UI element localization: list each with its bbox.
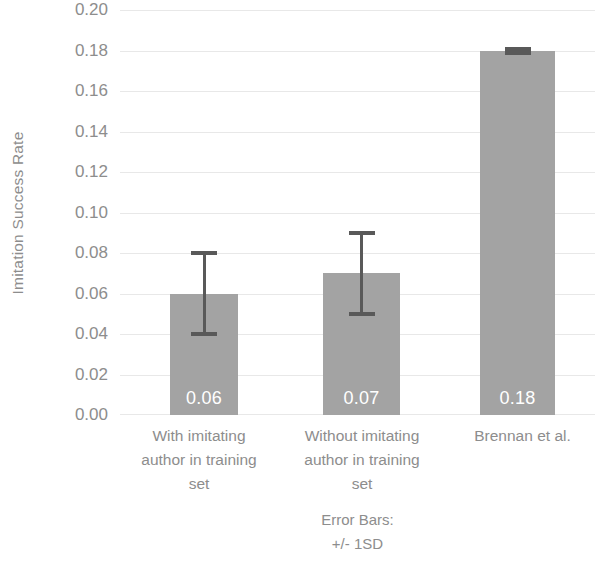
error-bar-line xyxy=(203,253,206,334)
plot-area: 0.06 0.07 0.18 xyxy=(120,10,595,415)
x-category-label-line: set xyxy=(120,472,278,496)
y-tick-label: 0.02 xyxy=(75,365,108,385)
y-tick-label: 0.12 xyxy=(75,162,108,182)
y-axis-title: Imitation Success Rate xyxy=(0,0,36,425)
error-bar-cap-bottom xyxy=(191,332,217,336)
x-category-label-line: With imitating xyxy=(120,424,278,448)
bar-group: 0.06 xyxy=(170,10,238,415)
x-category-label-line: author in training xyxy=(283,448,441,472)
bar-group: 0.07 xyxy=(323,10,400,415)
x-category-label-line: author in training xyxy=(120,448,278,472)
error-bar-cap-top xyxy=(349,231,375,235)
bar-chart: Imitation Success Rate 0.20 0.18 0.16 0.… xyxy=(0,0,602,567)
y-tick-label: 0.16 xyxy=(75,81,108,101)
caption-line-2: +/- 1SD xyxy=(120,532,595,556)
bar-group: 0.18 xyxy=(480,10,555,415)
caption-line-1: Error Bars: xyxy=(120,508,595,532)
y-tick-label: 0.14 xyxy=(75,122,108,142)
y-tick-label: 0.00 xyxy=(75,405,108,425)
x-axis-category-labels: With imitating author in training set Wi… xyxy=(120,424,595,504)
y-tick-label: 0.08 xyxy=(75,243,108,263)
bar-value-label: 0.07 xyxy=(323,388,400,409)
y-tick-label: 0.06 xyxy=(75,284,108,304)
y-tick-label: 0.04 xyxy=(75,324,108,344)
y-tick-label: 0.10 xyxy=(75,203,108,223)
x-category-label: With imitating author in training set xyxy=(120,424,278,496)
x-category-label: Without imitating author in training set xyxy=(283,424,441,496)
x-category-label-line: Without imitating xyxy=(283,424,441,448)
x-category-label: Brennan et al. xyxy=(450,424,595,448)
x-category-label-line: set xyxy=(283,472,441,496)
bar[interactable]: 0.18 xyxy=(480,51,555,416)
error-bar-cap-top xyxy=(191,251,217,255)
y-tick-label: 0.20 xyxy=(75,0,108,20)
x-category-label-line: Brennan et al. xyxy=(450,424,595,448)
error-bars-caption: Error Bars: +/- 1SD xyxy=(120,508,595,556)
y-axis-title-text: Imitation Success Rate xyxy=(9,131,27,294)
bar-value-label: 0.06 xyxy=(170,388,238,409)
error-bar-line xyxy=(360,233,363,314)
bar-value-label: 0.18 xyxy=(480,388,555,409)
y-axis-tick-labels: 0.20 0.18 0.16 0.14 0.12 0.10 0.08 0.06 … xyxy=(40,0,116,425)
error-bar-cap-bottom xyxy=(349,312,375,316)
y-tick-label: 0.18 xyxy=(75,41,108,61)
error-bar-cap-bottom xyxy=(505,51,531,55)
